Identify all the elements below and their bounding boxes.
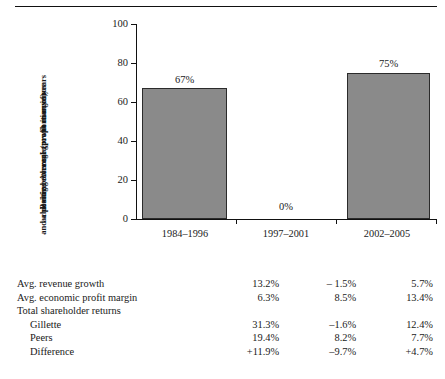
y-tick-20 <box>131 180 136 181</box>
row-label-difference: Difference <box>17 345 202 359</box>
x-axis-label-1997-2001: 1997–2001 <box>236 228 336 240</box>
row-value-difference-2002-2005: +4.7% <box>356 345 433 359</box>
table-row: Avg. economic profit margin 6.3% 8.5% 13… <box>17 291 433 305</box>
top-divider-rule <box>15 6 437 7</box>
bar-1984-1996[interactable] <box>142 88 227 219</box>
y-tick-40 <box>131 141 136 142</box>
y-axis-title-line-3: and a positive economic profit margin) <box>39 59 50 269</box>
row-label-total-shareholder-returns: Total shareholder returns <box>17 304 202 318</box>
table-row: Peers 19.4% 8.2% 7.7% <box>17 331 433 345</box>
y-tick-label-60: 60 <box>88 97 128 108</box>
table-row-section-header: Total shareholder returns <box>17 304 433 318</box>
y-axis-spine <box>136 24 137 219</box>
bar-chart: Batting Average (proportion of years ach… <box>0 14 445 244</box>
y-tick-100 <box>131 24 136 25</box>
row-value-difference-1997-2001: –9.7% <box>279 345 356 359</box>
row-value-peers-2002-2005: 7.7% <box>356 331 433 345</box>
row-value-peers-1997-2001: 8.2% <box>279 331 356 345</box>
bar-2002-2005[interactable] <box>347 73 430 219</box>
exhibit-figure: Batting Average (proportion of years ach… <box>0 0 445 379</box>
y-tick-label-20: 20 <box>88 175 128 186</box>
row-value-total-shareholder-returns-2002-2005 <box>356 304 433 318</box>
row-value-total-shareholder-returns-1984-1996 <box>202 304 279 318</box>
y-tick-label-80: 80 <box>88 58 128 69</box>
y-tick-label-100: 100 <box>88 19 128 30</box>
row-value-gillette-1997-2001: –1.6% <box>279 318 356 332</box>
row-value-avg-economic-profit-margin-1984-1996: 6.3% <box>202 291 279 305</box>
x-tick-2 <box>336 219 337 224</box>
y-tick-label-0: 0 <box>88 214 128 225</box>
table-row: Gillette 31.3% –1.6% 12.4% <box>17 318 433 332</box>
row-value-avg-economic-profit-margin-2002-2005: 13.4% <box>356 291 433 305</box>
row-value-avg-economic-profit-margin-1997-2001: 8.5% <box>279 291 356 305</box>
y-tick-label-40: 40 <box>88 136 128 147</box>
table-row: Avg. revenue growth 13.2% – 1.5% 5.7% <box>17 277 433 291</box>
row-value-avg-revenue-growth-1984-1996: 13.2% <box>202 277 279 291</box>
x-tick-3 <box>436 219 437 224</box>
y-tick-0 <box>131 219 136 220</box>
plot-area: 100 80 60 40 20 0 67% 0% 75% 1984–1996 1… <box>136 24 437 219</box>
table-row: Difference +11.9% –9.7% +4.7% <box>17 345 433 359</box>
row-value-total-shareholder-returns-1997-2001 <box>279 304 356 318</box>
x-axis-label-2002-2005: 2002–2005 <box>337 228 437 240</box>
row-value-avg-revenue-growth-1997-2001: – 1.5% <box>279 277 356 291</box>
row-label-gillette: Gillette <box>17 318 202 332</box>
x-tick-1 <box>236 219 237 224</box>
row-value-difference-1984-1996: +11.9% <box>202 345 279 359</box>
y-tick-60 <box>131 102 136 103</box>
row-value-gillette-2002-2005: 12.4% <box>356 318 433 332</box>
x-axis-label-1984-1996: 1984–1996 <box>135 228 235 240</box>
data-table: Avg. revenue growth 13.2% – 1.5% 5.7% Av… <box>17 277 433 359</box>
y-tick-80 <box>131 63 136 64</box>
bar-value-label-1984-1996: 67% <box>135 74 235 85</box>
row-label-peers: Peers <box>17 331 202 345</box>
bar-value-label-2002-2005: 75% <box>339 58 439 69</box>
bar-value-label-1997-2001: 0% <box>236 201 336 212</box>
row-value-peers-1984-1996: 19.4% <box>202 331 279 345</box>
row-label-avg-revenue-growth: Avg. revenue growth <box>17 277 202 291</box>
row-label-avg-economic-profit-margin: Avg. economic profit margin <box>17 291 202 305</box>
y-axis-title-wrap-3: and a positive economic profit margin) <box>16 59 72 269</box>
row-value-gillette-1984-1996: 31.3% <box>202 318 279 332</box>
row-value-avg-revenue-growth-2002-2005: 5.7% <box>356 277 433 291</box>
x-axis-spine <box>136 219 437 220</box>
